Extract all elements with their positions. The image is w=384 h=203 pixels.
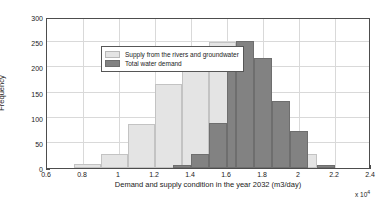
histogram-bar	[227, 70, 236, 168]
histogram-bar	[191, 154, 209, 168]
legend-label-demand: Total water demand	[125, 59, 182, 68]
x-tick-label: 2	[296, 171, 300, 178]
y-tick-label: 200	[31, 65, 43, 72]
histogram-bar	[317, 165, 335, 168]
y-tick-label: 150	[31, 90, 43, 97]
y-tick-label: 250	[31, 40, 43, 47]
x-tick-label: 0.8	[77, 171, 87, 178]
chart-legend: Supply from the rivers and groundwater T…	[101, 46, 244, 72]
x-tick-label: 2.2	[329, 171, 339, 178]
x-tick-label: 2.4	[365, 171, 375, 178]
legend-item-demand: Total water demand	[105, 59, 239, 68]
plot-area: Supply from the rivers and groundwater T…	[46, 18, 370, 169]
histogram-bar	[290, 131, 308, 168]
legend-label-supply: Supply from the rivers and groundwater	[125, 50, 239, 59]
histogram-bar	[182, 64, 209, 168]
gridline-horizontal	[47, 41, 369, 42]
histogram-bar	[209, 123, 227, 168]
histogram-bar	[155, 84, 182, 168]
x-tick-mark	[370, 165, 371, 169]
histogram-bar	[272, 101, 290, 168]
histogram-bar	[173, 165, 191, 168]
x-tick-label: 1.2	[149, 171, 159, 178]
histogram-bar	[254, 58, 272, 168]
y-tick-label: 300	[31, 15, 43, 22]
x-tick-label: 1.8	[257, 171, 267, 178]
histogram-bar	[128, 124, 155, 168]
y-tick-label: 100	[31, 115, 43, 122]
gridline-vertical	[83, 19, 84, 168]
histogram-bar	[101, 154, 128, 168]
histogram-bar	[74, 164, 101, 168]
gridline-vertical	[335, 19, 336, 168]
x-tick-mark	[46, 165, 47, 169]
y-tick-label: 50	[35, 140, 43, 147]
y-axis-label: Frequency	[0, 63, 6, 123]
x-tick-label: 0.6	[41, 171, 51, 178]
legend-item-supply: Supply from the rivers and groundwater	[105, 50, 239, 59]
x-axis-multiplier-exponent: 4	[367, 189, 370, 195]
gridline-vertical	[119, 19, 120, 168]
y-tick-mark	[46, 169, 50, 170]
x-axis-multiplier-base: x 10	[355, 191, 367, 198]
x-tick-label: 1.6	[221, 171, 231, 178]
legend-swatch-supply-icon	[105, 51, 120, 58]
x-tick-label: 1.4	[185, 171, 195, 178]
histogram-figure: Frequency 050100150200250300 Supply from…	[0, 0, 384, 203]
legend-swatch-demand-icon	[105, 60, 120, 67]
x-axis-label: Demand and supply condition in the year …	[46, 180, 370, 189]
x-axis-multiplier: x 104	[355, 189, 370, 198]
x-tick-label: 1	[116, 171, 120, 178]
